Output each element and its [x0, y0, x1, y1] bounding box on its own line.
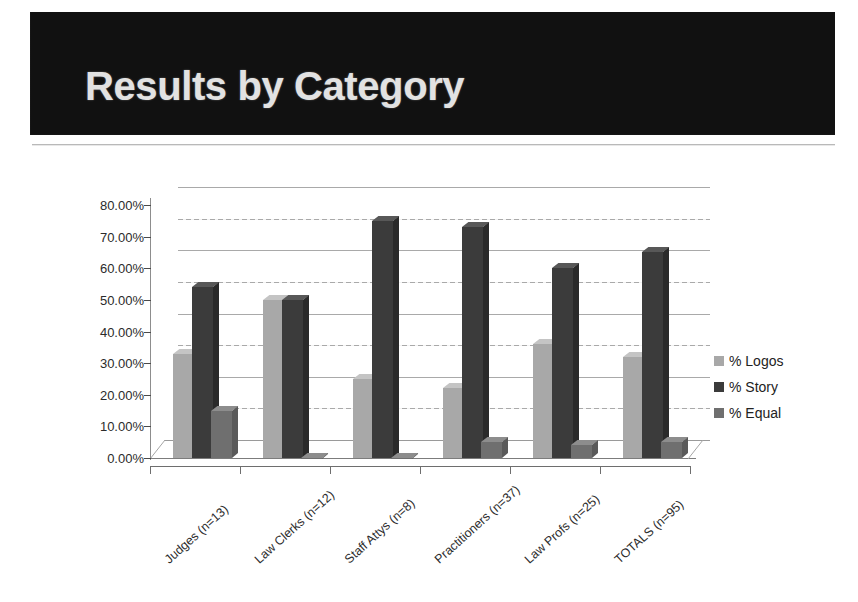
bar-logos-3 — [443, 388, 464, 458]
y-axis-tick-mark — [144, 458, 151, 459]
y-axis-tick-mark — [144, 363, 151, 364]
bar-side-3d — [663, 247, 669, 458]
bar-equal-1 — [301, 458, 322, 459]
y-axis-tick-label: 60.00% — [62, 261, 144, 276]
x-axis-category-label: Law Clerks (n=12) — [252, 488, 337, 567]
bar-story-3 — [462, 227, 483, 458]
gridline — [178, 250, 710, 251]
x-axis-tick-mark — [690, 466, 691, 474]
bar-logos-0 — [173, 354, 194, 458]
x-axis-tick-mark — [240, 466, 241, 474]
bar-equal-4 — [571, 445, 592, 458]
gridline — [178, 219, 710, 220]
bar-face — [533, 344, 554, 458]
bar-story-4 — [552, 268, 573, 458]
gridline — [178, 314, 710, 315]
legend-item-label: % Equal — [729, 405, 781, 421]
x-axis-tick-mark — [600, 466, 601, 474]
bar-face — [263, 300, 284, 458]
y-axis-tick-mark — [144, 332, 151, 333]
y-axis-tick-mark — [144, 205, 151, 206]
bar-face — [372, 221, 393, 458]
x-axis-tick-mark — [330, 466, 331, 474]
legend-item: % Equal — [714, 400, 844, 426]
gridline — [178, 187, 710, 188]
x-axis-tick-mark — [420, 466, 421, 474]
bar-equal-0 — [211, 411, 232, 458]
legend-item-label: % Story — [729, 379, 778, 395]
bar-side-3d — [232, 406, 238, 458]
y-axis-tick-mark — [144, 426, 151, 427]
square-swatch-icon — [714, 408, 724, 418]
y-axis-tick-label: 40.00% — [62, 324, 144, 339]
y-axis-tick-mark — [144, 300, 151, 301]
y-axis-tick-label: 70.00% — [62, 229, 144, 244]
bar-face — [353, 379, 374, 458]
bar-logos-4 — [533, 344, 554, 458]
bar-side-3d — [573, 263, 579, 458]
bar-story-2 — [372, 221, 393, 458]
bar-side-3d — [393, 216, 399, 458]
bar-face — [481, 442, 502, 458]
y-axis-tick-mark — [144, 395, 151, 396]
bar-face — [623, 357, 644, 458]
square-swatch-icon — [714, 356, 724, 366]
bar-side-3d — [303, 295, 309, 458]
legend-item: % Logos — [714, 348, 844, 374]
y-axis-tick-mark — [144, 237, 151, 238]
x-axis-category-label: Practitioners (n=37) — [432, 483, 523, 567]
legend-item: % Story — [714, 374, 844, 400]
bar-story-5 — [642, 252, 663, 458]
y-axis-tick-label: 20.00% — [62, 387, 144, 402]
y-axis-tick-label: 10.00% — [62, 419, 144, 434]
bar-face — [443, 388, 464, 458]
x-axis-category-label: Staff Attys (n=8) — [342, 496, 418, 566]
bar-equal-2 — [391, 458, 412, 459]
bar-face — [211, 411, 232, 458]
x-axis-tick-mark — [150, 466, 151, 474]
bar-face — [462, 227, 483, 458]
legend-item-label: % Logos — [729, 353, 783, 369]
bar-face — [642, 252, 663, 458]
floor-right-edge — [688, 440, 712, 460]
x-axis-category-label: Judges (n=13) — [162, 502, 231, 566]
floor-left-edge — [150, 440, 172, 460]
bar-equal-5 — [661, 442, 682, 458]
y-axis-tick-label: 50.00% — [62, 292, 144, 307]
bar-logos-1 — [263, 300, 284, 458]
bar-face — [571, 445, 592, 458]
y-axis-tick-label: 0.00% — [62, 451, 144, 466]
bar-face — [192, 287, 213, 458]
bar-face — [173, 354, 194, 458]
bar-story-1 — [282, 300, 303, 458]
bar-logos-5 — [623, 357, 644, 458]
bar-equal-3 — [481, 442, 502, 458]
y-axis-labels: 80.00%70.00%60.00%50.00%40.00%30.00%20.0… — [62, 0, 144, 602]
bar-face — [282, 300, 303, 458]
bar-side-3d — [483, 222, 489, 458]
y-axis-tick-label: 80.00% — [62, 198, 144, 213]
x-axis-tick-mark — [510, 466, 511, 474]
chart-legend: % Logos% Story% Equal — [714, 348, 844, 426]
y-axis-tick-label: 30.00% — [62, 356, 144, 371]
bar-face — [661, 442, 682, 458]
x-axis-category-label: TOTALS (n=95) — [612, 498, 686, 567]
square-swatch-icon — [714, 382, 724, 392]
bar-story-0 — [192, 287, 213, 458]
x-axis-category-label: Law Profs (n=25) — [522, 492, 602, 566]
gridline — [178, 282, 710, 283]
gridline — [178, 345, 710, 346]
bar-logos-2 — [353, 379, 374, 458]
bar-face — [552, 268, 573, 458]
y-axis-tick-mark — [144, 268, 151, 269]
bar-chart: 80.00%70.00%60.00%50.00%40.00%30.00%20.0… — [0, 0, 858, 602]
